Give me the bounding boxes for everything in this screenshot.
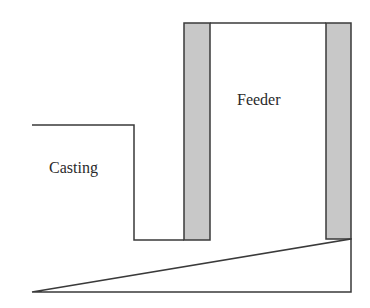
feeder-label: Feeder (237, 91, 281, 108)
feeder-sleeve-right (326, 23, 351, 239)
casting-feeder-diagram: Casting Feeder (0, 0, 370, 308)
casting-label: Casting (49, 159, 98, 177)
feeder-sleeve-left (184, 23, 210, 240)
